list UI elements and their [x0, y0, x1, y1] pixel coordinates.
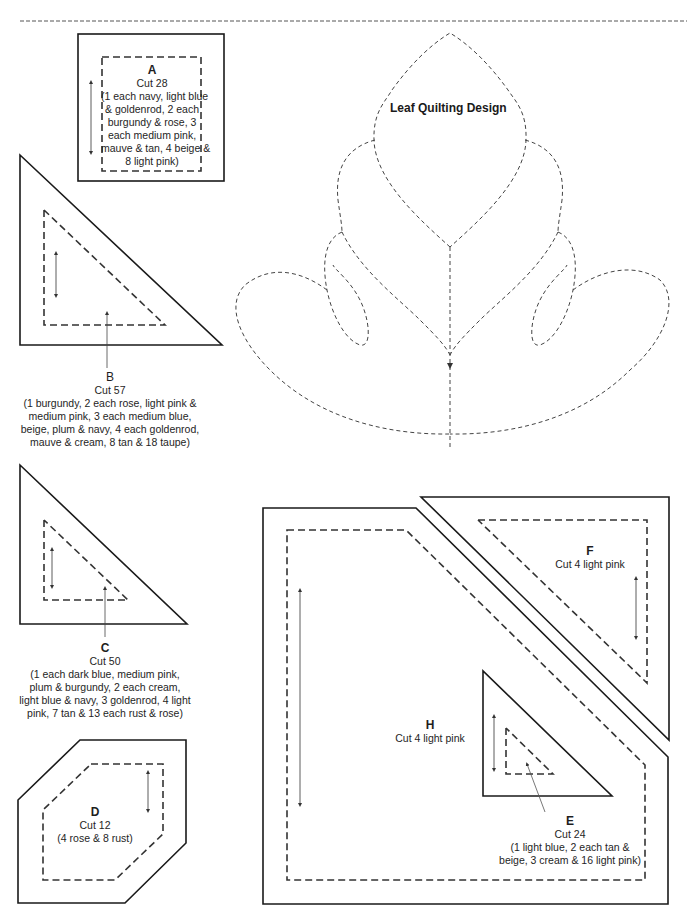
leaf-right-middle-lobe — [525, 140, 563, 232]
template-e-letter: E — [480, 814, 660, 828]
template-c-letter: C — [0, 641, 210, 655]
template-e-label: E Cut 24 (1 light blue, 2 each tan & bei… — [480, 814, 660, 867]
template-a-detail: & goldenrod, 2 each — [101, 103, 203, 116]
template-f — [421, 497, 669, 740]
template-e-outline — [483, 671, 612, 796]
template-c-detail: light blue & navy, 3 goldenrod, 4 light — [0, 694, 210, 707]
template-a-detail: mauve & tan, 4 beige & — [101, 142, 203, 155]
template-a-detail: 8 light pink) — [101, 155, 203, 168]
template-e-detail: (1 light blue, 2 each tan & — [480, 841, 660, 854]
leaf-left-curl — [325, 232, 369, 345]
leaf-quilting-design — [236, 33, 669, 447]
template-h-cut: Cut 4 light pink — [380, 732, 480, 745]
template-d-detail: (4 rose & 8 rust) — [50, 832, 140, 845]
template-c-detail: plum & burgundy, 2 each cream, — [0, 681, 210, 694]
template-b-detail: (1 burgundy, 2 each rose, light pink & — [0, 397, 220, 410]
template-d-cut: Cut 12 — [50, 819, 140, 832]
leaf-top-lobe — [374, 33, 526, 247]
template-a-detail: each medium pink, — [101, 129, 203, 142]
template-b-detail: beige, plum & navy, 4 each goldenrod, — [0, 423, 220, 436]
template-b-seam-line — [44, 210, 165, 325]
template-f-cut: Cut 4 light pink — [540, 558, 640, 571]
leaf-left-middle-lobe — [337, 140, 375, 232]
leaf-quilting-design-title: Leaf Quilting Design — [390, 101, 507, 115]
template-c-label: C Cut 50 (1 each dark blue, medium pink,… — [0, 641, 210, 720]
template-c-detail: (1 each dark blue, medium pink, — [0, 668, 210, 681]
template-a-detail: (1 each navy, light blue — [101, 90, 203, 103]
template-f-letter: F — [540, 544, 640, 558]
template-e-pointer-line — [527, 764, 545, 812]
template-b-letter: B — [0, 370, 220, 384]
template-c-cut: Cut 50 — [0, 655, 210, 668]
template-a-label: A Cut 28 (1 each navy, light blue & gold… — [101, 63, 203, 168]
template-b-detail: mauve & cream, 8 tan & 18 taupe) — [0, 436, 220, 449]
template-d-letter: D — [50, 805, 140, 819]
template-a-letter: A — [101, 63, 203, 77]
template-b-cut: Cut 57 — [0, 384, 220, 397]
leaf-left-vein — [342, 232, 450, 355]
template-c-detail: pink, 7 tan & 13 each rust & rose) — [0, 707, 210, 720]
template-h-label: H Cut 4 light pink — [380, 718, 480, 745]
leaf-right-vein — [450, 232, 558, 355]
template-a-cut: Cut 28 — [101, 77, 203, 90]
leaf-right-curl — [532, 232, 576, 345]
template-h-letter: H — [380, 718, 480, 732]
leaf-stem-arrow-icon — [447, 363, 453, 369]
template-b — [20, 155, 222, 368]
template-a-detail: burgundy & rose, 3 — [101, 116, 203, 129]
template-e-detail: beige, 3 cream & 16 light pink) — [480, 854, 660, 867]
template-c-seam-line — [44, 520, 128, 600]
template-b-label: B Cut 57 (1 burgundy, 2 each rose, light… — [0, 370, 220, 449]
template-b-detail: medium pink, 3 each medium blue, — [0, 410, 220, 423]
template-b-outline — [20, 155, 222, 345]
leaf-right-outer-lobe — [450, 270, 669, 434]
template-d-label: D Cut 12 (4 rose & 8 rust) — [50, 805, 140, 845]
leaf-left-outer-lobe — [236, 272, 450, 434]
template-e-cut: Cut 24 — [480, 828, 660, 841]
template-c — [20, 465, 187, 637]
template-e-seam-line — [506, 728, 553, 774]
template-e — [483, 671, 612, 812]
template-f-outline — [421, 497, 669, 740]
template-f-label: F Cut 4 light pink — [540, 544, 640, 571]
